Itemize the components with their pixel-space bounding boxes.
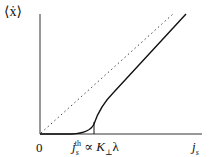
chart-plot	[0, 0, 212, 157]
y-axis-label: ⟨ẋ⟩	[4, 5, 22, 19]
origin-label: 0	[36, 141, 43, 154]
threshold-label: jsth ∝ K⊥λ	[72, 140, 119, 157]
dotted-line	[41, 14, 173, 133]
solid-curve	[40, 14, 186, 134]
x-axis-label: js	[192, 140, 199, 157]
